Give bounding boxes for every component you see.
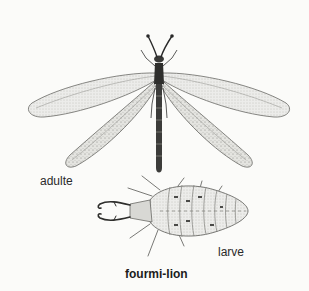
right-antenna (161, 36, 172, 57)
larva-insect (98, 176, 248, 256)
adult-label: adulte (40, 174, 73, 188)
adult-abdomen (156, 84, 162, 173)
left-antenna (148, 36, 157, 57)
larva-head (130, 200, 152, 222)
larva-label: larve (218, 245, 244, 259)
caption-title: fourmi-lion (125, 267, 188, 281)
illustration-canvas: adulte larve fourmi-lion (0, 0, 309, 291)
adult-insect (28, 34, 289, 172)
adult-head (154, 56, 164, 63)
antlion-drawing (0, 0, 309, 291)
adult-thorax (154, 63, 164, 84)
